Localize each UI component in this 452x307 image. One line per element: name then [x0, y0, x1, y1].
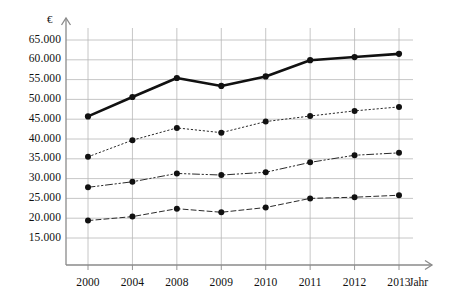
data-point-marker	[174, 170, 180, 176]
data-point-marker	[85, 218, 91, 224]
data-point-marker	[218, 172, 224, 178]
data-point-marker	[218, 83, 224, 89]
data-point-marker	[129, 179, 135, 185]
data-point-marker	[307, 113, 313, 119]
data-point-marker	[352, 108, 358, 114]
x-tick-label: 2010	[241, 276, 291, 288]
y-tick-label: 35.000	[29, 151, 61, 163]
x-tick-label: 2000	[63, 276, 113, 288]
data-point-marker	[396, 51, 402, 57]
y-tick-label: 25.000	[29, 191, 61, 203]
y-tick-label: 40.000	[29, 132, 61, 144]
x-axis-title: Jahr	[409, 276, 428, 288]
data-point-marker	[396, 192, 402, 198]
data-point-marker	[218, 130, 224, 136]
gridlines-horizontal	[66, 40, 413, 238]
chart-container: € 15.00020.00025.00030.00035.00040.00045…	[0, 0, 452, 307]
data-point-marker	[85, 184, 91, 190]
x-tick-label: 2011	[285, 276, 335, 288]
y-tick-label: 55.000	[29, 72, 61, 84]
y-tick-label: 60.000	[29, 52, 61, 64]
data-point-marker	[263, 73, 269, 79]
data-point-marker	[174, 206, 180, 212]
data-point-marker	[351, 54, 357, 60]
data-point-marker	[263, 205, 269, 211]
y-tick-label: 65.000	[29, 33, 61, 45]
x-tick-label: 2009	[196, 276, 246, 288]
data-point-marker	[396, 104, 402, 110]
data-point-marker	[396, 150, 402, 156]
y-tick-label: 20.000	[29, 211, 61, 223]
data-point-marker	[307, 195, 313, 201]
x-tick-label: 2004	[107, 276, 157, 288]
data-point-marker	[129, 214, 135, 220]
data-point-marker	[263, 169, 269, 175]
y-tick-label: 45.000	[29, 112, 61, 124]
y-axis-unit-label: €	[47, 13, 53, 25]
data-point-marker	[85, 113, 91, 119]
data-point-marker	[263, 119, 269, 125]
data-point-marker	[218, 209, 224, 215]
data-point-marker	[174, 125, 180, 131]
series-line	[88, 107, 399, 157]
y-tick-label: 15.000	[29, 231, 61, 243]
data-point-marker	[129, 137, 135, 143]
x-tick-label: 2008	[152, 276, 202, 288]
data-point-marker	[307, 159, 313, 165]
gridlines-vertical	[88, 28, 399, 265]
data-point-marker	[352, 194, 358, 200]
y-tick-label: 50.000	[29, 92, 61, 104]
line-chart-plot	[0, 0, 452, 307]
data-point-marker	[85, 154, 91, 160]
data-point-marker	[352, 152, 358, 158]
y-tick-label: 30.000	[29, 171, 61, 183]
data-point-marker	[307, 57, 313, 63]
data-point-marker	[129, 94, 135, 100]
x-tick-label: 2012	[330, 276, 380, 288]
data-point-marker	[174, 75, 180, 81]
series-line	[88, 54, 399, 117]
